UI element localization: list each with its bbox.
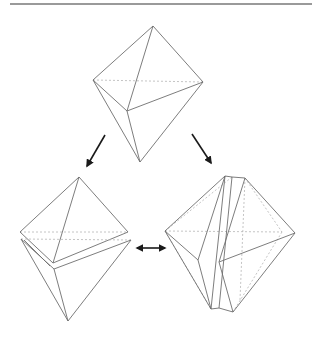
octahedron-layered <box>165 176 295 312</box>
arrow-to-split <box>87 135 105 166</box>
octahedron-diagram <box>0 0 318 337</box>
octahedron-split <box>20 177 131 321</box>
octahedron-whole <box>93 26 203 162</box>
arrow-to-layered <box>192 134 211 163</box>
